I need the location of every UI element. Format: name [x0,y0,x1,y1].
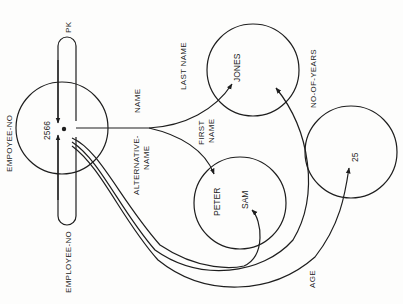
employee-no-label: EMPLOYEE-NO [64,231,73,293]
first-name-value-sam: SAM [240,191,250,209]
employee-center-dot [62,127,66,131]
diagram-canvas: EMPOYEE-NO PK EMPLOYEE-NO NAME ALTERNATI… [0,0,403,304]
semantic-network-diagram: EMPOYEE-NO PK EMPLOYEE-NO NAME ALTERNATI… [0,0,403,304]
alt-last-name-edge [72,88,308,271]
employee-no-label-left: EMPOYEE-NO [5,115,14,172]
pk-label: PK [64,21,73,33]
no-of-years-label: NO-OF-YEARS [309,49,318,108]
alternative-name-label-1: ALTERNATIVE- [132,135,141,195]
age-value: 25 [350,152,360,162]
employee-value: 2566 [42,121,52,140]
age-node [305,106,397,198]
last-name-value: JONES [232,53,242,82]
last-name-node [207,24,299,116]
first-name-value-peter: PETER [212,188,222,216]
last-name-edge [149,84,232,128]
pk-loop [58,37,76,122]
first-name-label-1: FIRST [197,120,206,145]
first-name-label-2: NAME [207,119,216,143]
age-label: AGE [308,270,317,288]
name-label: NAME [133,89,142,113]
last-name-label: LAST NAME [179,42,188,90]
employee-no-loop [58,136,76,225]
alternative-name-label-2: NAME [142,146,151,170]
